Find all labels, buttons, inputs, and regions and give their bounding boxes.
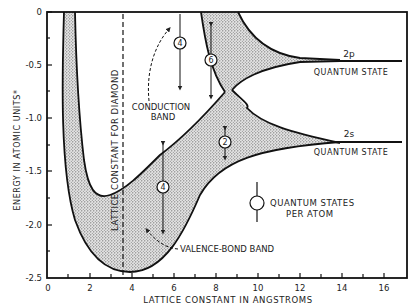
svg-text:4: 4 [177,39,182,48]
state-2p-label: 2p [343,49,355,59]
y-tick-label: -1.0 [25,113,42,123]
x-tick-label: 14 [337,283,348,293]
state-2p-sub: QUANTUM STATE [314,68,388,77]
svg-text:PER ATOM: PER ATOM [286,209,333,219]
svg-text:4: 4 [160,183,165,192]
band-regions [63,12,340,272]
y-tick-label: -2.0 [25,220,42,230]
svg-text:2: 2 [222,138,227,147]
state-2s-label: 2s [344,129,355,139]
x-tick-label: 10 [253,283,264,293]
x-tick-label: 12 [295,283,306,293]
conduction-band-label: CONDUCTION [132,102,190,112]
y-tick-label: 0 [37,7,42,17]
x-tick-label: 0 [45,283,50,293]
conduction-band-label-2: BAND [151,112,176,122]
svg-text:QUANTUM STATES: QUANTUM STATES [270,198,355,208]
x-tick-label: 4 [129,283,134,293]
x-tick-label: 8 [213,283,218,293]
svg-text:6: 6 [208,56,213,65]
y-axis-label: ENERGY IN ATOMIC UNITS* [13,89,22,210]
diamond-lattice-label: LATTICE CONSTANT FOR DIAMOND [110,69,120,231]
legend-circle-icon [250,196,264,210]
legend: QUANTUM STATES PER ATOM [250,182,355,222]
x-tick-label: 6 [171,283,176,293]
energy-band-diagram: 0 -0.5 -1.0 -1.5 -2.0 -2.5 0 2 4 6 8 10 … [0,0,416,307]
valence-bond-band [63,12,340,272]
x-tick-label: 2 [87,283,92,293]
y-tick-label: -2.5 [25,273,42,283]
x-axis-label: LATTICE CONSTANT IN ANGSTROMS [143,295,312,305]
conduction-band-pointer [148,29,169,101]
valence-band-label: VALENCE-BOND BAND [180,244,275,254]
x-tick-label: 16 [379,283,390,293]
state-2s-sub: QUANTUM STATE [314,148,388,157]
y-tick-label: -0.5 [25,60,42,70]
y-tick-label: -1.5 [25,166,42,176]
count-marker-conduction-left: 4 [174,14,186,88]
